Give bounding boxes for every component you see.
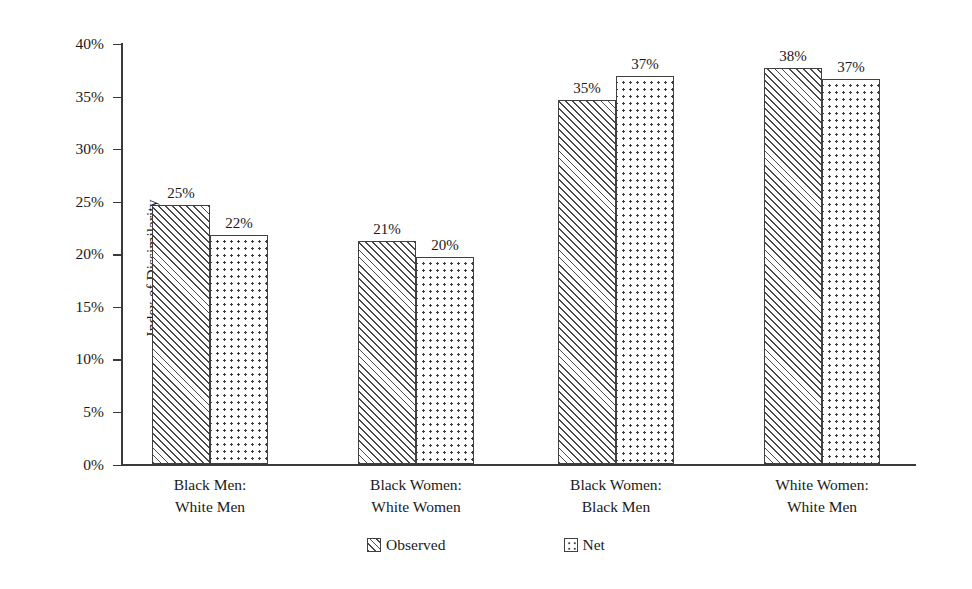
bar-observed-1: 25%	[152, 205, 210, 465]
category-label-line1: Black Women:	[516, 474, 716, 496]
bar-value-label: 37%	[631, 57, 659, 72]
bar-net-1: 22%	[210, 235, 268, 464]
legend-item-net[interactable]: Net	[564, 536, 605, 554]
category-label-line2: White Women	[316, 496, 516, 518]
bar-net-2: 20%	[416, 257, 474, 464]
category-label-1: Black Men:White Men	[110, 474, 310, 518]
category-label-3: Black Women:Black Men	[516, 474, 716, 518]
diagonal-hatch-swatch	[367, 538, 381, 552]
category-label-line1: Black Women:	[316, 474, 516, 496]
bar-value-label: 37%	[837, 60, 865, 75]
y-axis-tick-label: 5%	[50, 404, 104, 420]
y-axis-tick-mark	[113, 307, 121, 308]
y-axis-tick-label: 15%	[50, 299, 104, 315]
legend-item-label: Observed	[386, 536, 445, 554]
category-label-2: Black Women:White Women	[316, 474, 516, 518]
bar-value-label: 38%	[779, 49, 807, 64]
y-axis-tick-label: 10%	[50, 351, 104, 367]
bar-value-label: 22%	[225, 216, 253, 231]
legend-item-label: Net	[583, 536, 605, 554]
y-axis-tick-label: 0%	[50, 457, 104, 473]
y-axis-tick-mark	[113, 202, 121, 203]
y-axis-tick-label: 40%	[50, 36, 104, 52]
chart-legend: ObservedNet	[0, 536, 972, 554]
bar-net-4: 37%	[822, 79, 880, 465]
category-label-4: White Women:White Men	[722, 474, 922, 518]
bar-value-label: 20%	[431, 238, 459, 253]
bar-chart: Index of Dissimilarity 0%5%10%15%20%25%3…	[0, 0, 972, 589]
y-axis-tick-mark	[113, 44, 121, 45]
y-axis-tick-mark	[113, 149, 121, 150]
category-label-line2: White Men	[110, 496, 310, 518]
bar-net-3: 37%	[616, 76, 674, 465]
y-axis-tick-mark	[113, 412, 121, 413]
bar-value-label: 25%	[167, 186, 195, 201]
y-axis-tick-label: 35%	[50, 89, 104, 105]
y-axis-tick-mark	[113, 359, 121, 360]
bar-observed-2: 21%	[358, 241, 416, 465]
legend-item-observed[interactable]: Observed	[367, 536, 445, 554]
category-label-line2: Black Men	[516, 496, 716, 518]
category-label-line2: White Men	[722, 496, 922, 518]
dotted-swatch	[564, 538, 578, 552]
bar-value-label: 21%	[373, 222, 401, 237]
y-axis-tick-label: 20%	[50, 246, 104, 262]
y-axis-tick-label: 25%	[50, 194, 104, 210]
category-label-line1: White Women:	[722, 474, 922, 496]
bar-observed-3: 35%	[558, 100, 616, 465]
bar-observed-4: 38%	[764, 68, 822, 464]
y-axis-tick-mark	[113, 97, 121, 98]
y-axis-tick-mark	[113, 465, 121, 466]
category-label-line1: Black Men:	[110, 474, 310, 496]
bar-value-label: 35%	[573, 81, 601, 96]
y-axis-tick-label: 30%	[50, 141, 104, 157]
y-axis-tick-mark	[113, 254, 121, 255]
